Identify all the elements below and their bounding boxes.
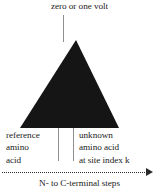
unknown-label-line-1: unknown bbox=[79, 129, 130, 141]
terminal-steps-axis-line bbox=[2, 172, 147, 173]
reference-amino-acid-label: reference amino acid bbox=[6, 129, 40, 166]
unknown-amino-acid-label: unknown amino acid at site index k bbox=[79, 129, 130, 166]
unknown-label-line-2: amino acid bbox=[79, 141, 130, 153]
leader-line-top bbox=[63, 15, 64, 42]
arrow-right-icon bbox=[146, 168, 153, 176]
reference-label-line-3: acid bbox=[6, 154, 40, 166]
top-caption: zero or one volt bbox=[0, 1, 159, 12]
leader-line-unknown bbox=[73, 128, 74, 161]
reference-label-line-1: reference bbox=[6, 129, 40, 141]
unknown-label-line-3: at site index k bbox=[79, 154, 130, 166]
protein-voltage-figure: zero or one volt reference amino acid un… bbox=[0, 0, 159, 188]
reference-label-line-2: amino bbox=[6, 141, 40, 153]
bottom-caption: N- to C-terminal steps bbox=[0, 178, 159, 188]
leader-line-reference bbox=[58, 128, 59, 161]
